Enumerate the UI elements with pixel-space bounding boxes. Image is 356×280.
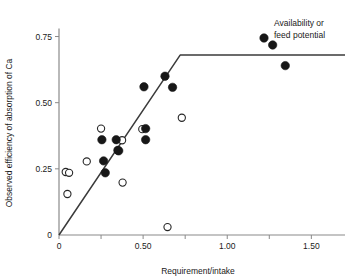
y-axis-ticks: 00.250.500.75 (35, 32, 59, 240)
data-point-filled-8 (141, 136, 149, 144)
x-tick-label-0: 0 (57, 241, 62, 251)
legend-marker-filled-circle (260, 34, 268, 42)
broken-stick-fit (59, 55, 345, 235)
y-tick-label-2: 0.50 (35, 98, 52, 108)
data-point-filled-9 (161, 72, 169, 80)
data-point-filled-3 (112, 136, 120, 144)
data-point-open-1 (65, 169, 72, 176)
x-tick-label-4: 1.00 (219, 241, 236, 251)
legend-label-line1: Availability or (274, 18, 324, 28)
data-point-filled-0 (98, 136, 106, 144)
data-point-open-2 (64, 190, 71, 197)
data-point-filled-6 (140, 83, 148, 91)
data-point-open-9 (178, 114, 185, 121)
filled-circle-data-points (98, 41, 290, 177)
broken-stick-fit-line (59, 55, 345, 235)
data-point-open-8 (164, 223, 171, 230)
x-tick-label-6: 1.50 (303, 241, 320, 251)
data-point-open-3 (83, 158, 90, 165)
data-point-open-4 (97, 125, 104, 132)
y-tick-label-1: 0.25 (35, 164, 52, 174)
y-tick-label-3: 0.75 (35, 32, 52, 42)
y-axis-title: Observed efficiency of absorption of Ca (4, 58, 14, 207)
x-axis-ticks: 00.501.001.50 (57, 235, 320, 251)
data-point-open-6 (119, 179, 126, 186)
data-point-filled-2 (101, 169, 109, 177)
data-point-filled-7 (141, 124, 149, 132)
scatter-plot-svg: 00.501.001.50 00.250.500.75 Requirement/… (0, 0, 356, 280)
chart-figure: 00.501.001.50 00.250.500.75 Requirement/… (0, 0, 356, 280)
data-point-filled-10 (168, 83, 176, 91)
data-point-filled-5 (115, 147, 123, 155)
data-point-filled-11 (268, 41, 276, 49)
x-tick-label-2: 0.50 (135, 241, 152, 251)
y-tick-label-0: 0 (47, 230, 52, 240)
data-point-filled-1 (99, 157, 107, 165)
open-circle-data-points (62, 114, 185, 230)
legend-label-line2: feed potential (274, 30, 325, 40)
x-axis-title: Requirement/intake (161, 266, 235, 276)
data-point-filled-12 (281, 61, 289, 69)
legend: Availability or feed potential (260, 18, 325, 42)
